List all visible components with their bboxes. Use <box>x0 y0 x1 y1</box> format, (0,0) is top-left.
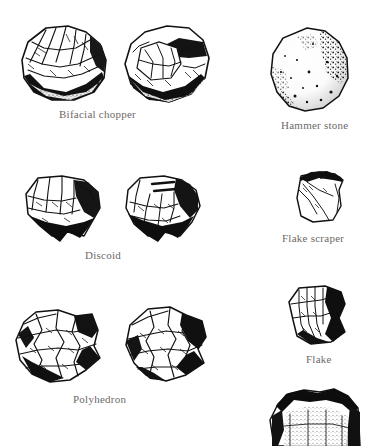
artifact-bifacial-chopper-view-1 <box>16 22 112 106</box>
artifact-discoid-view-2 <box>118 174 206 244</box>
artifact-bifacial-chopper-view-2 <box>119 22 214 106</box>
caption-bifacial-chopper: Bifacial chopper <box>59 108 136 120</box>
caption-flake-scraper: Flake scraper <box>282 232 344 244</box>
artifact-polyhedron-view-1 <box>12 308 104 384</box>
caption-discoid: Discoid <box>85 249 121 261</box>
caption-polyhedron: Polyhedron <box>73 393 126 405</box>
artifact-flake-scraper <box>289 168 349 228</box>
caption-hammer-stone: Hammer stone <box>281 119 348 131</box>
artifact-flake <box>283 284 355 348</box>
artifact-partial-cropped-bottom <box>264 386 369 446</box>
artifact-discoid-view-1 <box>18 174 106 244</box>
artifact-polyhedron-view-2 <box>120 305 212 383</box>
caption-flake: Flake <box>306 353 332 365</box>
artifact-hammer-stone <box>267 26 353 114</box>
